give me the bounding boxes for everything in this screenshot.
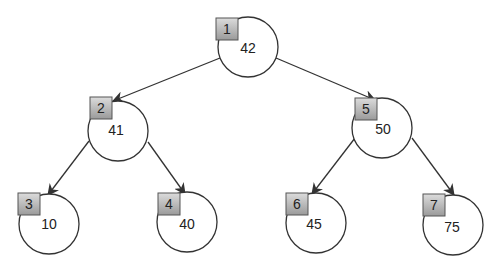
node-value: 75	[444, 219, 460, 235]
tree-node-7: 7 75	[423, 194, 483, 255]
node-index: 2	[97, 100, 105, 116]
edge-2-3	[48, 141, 89, 195]
edge-1-5	[276, 58, 375, 100]
tree-node-1: 1 42	[216, 17, 278, 77]
edge-1-2	[113, 58, 220, 101]
node-index: 3	[25, 196, 33, 212]
node-index: 4	[165, 196, 173, 212]
node-value: 10	[41, 216, 57, 232]
node-index: 5	[362, 101, 370, 117]
node-index: 1	[223, 21, 231, 37]
node-index: 7	[430, 197, 438, 213]
edge-5-7	[412, 138, 454, 195]
tree-node-6: 6 45	[286, 193, 346, 253]
edge-5-6	[312, 138, 355, 194]
tree-node-2: 2 41	[88, 97, 148, 161]
node-value: 42	[240, 40, 256, 56]
edge-2-4	[148, 142, 185, 194]
node-value: 41	[108, 122, 124, 138]
node-index: 6	[293, 196, 301, 212]
node-value: 40	[179, 216, 195, 232]
tree-node-5: 5 50	[352, 98, 412, 158]
node-value: 45	[306, 216, 322, 232]
tree-node-3: 3 10	[18, 193, 79, 254]
node-value: 50	[375, 121, 391, 137]
tree-node-4: 4 40	[157, 192, 217, 252]
tree-diagram: 1 42 2 41 5 50 3 10 4 40 6 45 7	[0, 0, 498, 269]
